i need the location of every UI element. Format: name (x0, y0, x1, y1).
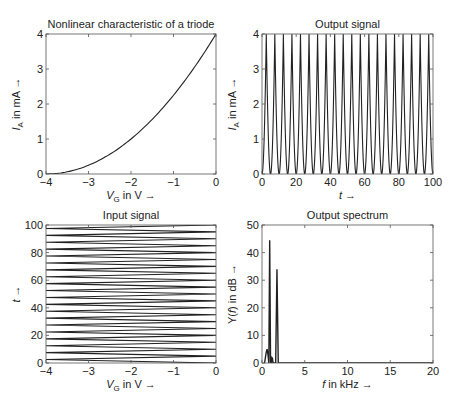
x-tick-label: −1 (167, 365, 180, 377)
x-tick-label: 20 (427, 365, 439, 377)
x-axis-label: VG in V → (106, 378, 156, 393)
y-tick-label: 0 (253, 168, 259, 180)
x-tick-label: −1 (167, 176, 180, 188)
figure-canvas: −4−3−2−1001234Nonlinear characteristic o… (0, 0, 459, 408)
y-tick-label: 4 (37, 28, 43, 40)
x-tick-label: 40 (324, 176, 336, 188)
x-tick-label: 5 (302, 365, 308, 377)
x-tick-label: 80 (393, 176, 405, 188)
output-signal-axes-box (262, 34, 433, 174)
y-axis-label: IA in mA → (226, 77, 241, 130)
chart-title: Input signal (103, 209, 159, 221)
x-tick-label: 0 (213, 365, 219, 377)
y-tick-label: 3 (37, 63, 43, 75)
x-tick-label: −2 (125, 176, 138, 188)
y-tick-label: 1 (37, 133, 43, 145)
x-tick-label: 15 (384, 365, 396, 377)
y-tick-label: 2 (253, 98, 259, 110)
input-signal-chart: −4−3−2−10020406080100Input signalVG in V… (10, 209, 219, 393)
y-tick-label: 20 (247, 302, 259, 314)
y-tick-label: 20 (31, 329, 43, 341)
y-tick-label: 80 (31, 247, 43, 259)
chart-title: Output signal (315, 18, 380, 30)
output-signal-chart: 02040608010001234Output signalt →IA in m… (226, 18, 442, 201)
triode-series (46, 34, 216, 174)
y-tick-label: 1 (253, 133, 259, 145)
x-tick-label: 20 (290, 176, 302, 188)
input-signal-series (46, 225, 216, 363)
y-tick-label: 60 (31, 274, 43, 286)
x-axis-label: VG in V → (106, 189, 156, 204)
x-tick-label: −3 (82, 176, 95, 188)
triode-chart: −4−3−2−1001234Nonlinear characteristic o… (10, 18, 219, 204)
x-axis-label: t → (339, 189, 356, 201)
y-tick-label: 0 (37, 168, 43, 180)
output-signal-series (262, 34, 433, 174)
y-tick-label: 10 (247, 329, 259, 341)
x-tick-label: 0 (259, 365, 265, 377)
output-spectrum-axes-box (262, 225, 433, 363)
x-tick-label: 0 (213, 176, 219, 188)
y-tick-label: 50 (247, 219, 259, 231)
x-tick-label: −2 (125, 365, 138, 377)
y-axis-label: IA in mA → (10, 77, 25, 130)
x-axis-label: f in kHz → (322, 378, 373, 390)
y-tick-label: 30 (247, 274, 259, 286)
x-tick-label: 60 (358, 176, 370, 188)
y-axis-label: t → (10, 285, 22, 302)
y-tick-label: 40 (31, 302, 43, 314)
y-tick-label: 4 (253, 28, 259, 40)
y-tick-label: 100 (25, 219, 43, 231)
x-tick-label: 10 (341, 365, 353, 377)
x-tick-label: −3 (82, 365, 95, 377)
x-tick-label: 0 (259, 176, 265, 188)
output-spectrum-series (265, 240, 433, 363)
output-spectrum-chart: 0510152001020304050Output spectrumf in k… (226, 209, 439, 390)
x-tick-label: 100 (424, 176, 442, 188)
y-tick-label: 0 (253, 357, 259, 369)
y-tick-label: 2 (37, 98, 43, 110)
chart-title: Output spectrum (307, 209, 388, 221)
y-tick-label: 40 (247, 247, 259, 259)
y-axis-label: Y(f) in dB → (226, 264, 238, 324)
triode-axes-box (46, 34, 216, 174)
y-tick-label: 3 (253, 63, 259, 75)
chart-title: Nonlinear characteristic of a triode (48, 18, 215, 30)
y-tick-label: 0 (37, 357, 43, 369)
